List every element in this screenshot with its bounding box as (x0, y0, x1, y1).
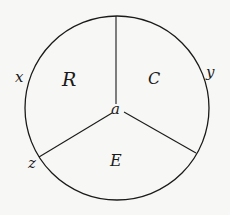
radius-lower-left (39, 113, 112, 157)
radius-lower-right (124, 112, 196, 153)
region-label-e: E (109, 151, 122, 170)
sector-diagram: R C E a x y z (0, 0, 230, 215)
center-label-a: a (111, 100, 120, 118)
region-label-r: R (61, 68, 76, 90)
point-label-x: x (15, 68, 24, 86)
point-label-z: z (27, 154, 36, 172)
point-label-y: y (205, 63, 215, 81)
region-label-c: C (148, 69, 160, 88)
